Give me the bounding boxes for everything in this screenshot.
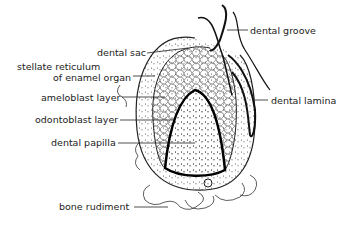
label-odontoblast-layer: odontoblast layer: [35, 114, 118, 125]
label-dental-groove: dental groove: [250, 25, 316, 36]
label-dental-papilla: dental papilla: [51, 137, 116, 148]
label-ameloblast-layer: ameloblast layer: [41, 92, 120, 103]
label-dental-lamina: dental lamina: [271, 95, 336, 106]
label-stellate-reticulum-2: of enamel organ: [53, 72, 131, 83]
label-dental-sac: dental sac: [97, 47, 146, 58]
label-bone-rudiment: bone rudiment: [59, 201, 129, 212]
label-stellate-reticulum: stellate reticulum: [17, 61, 100, 72]
